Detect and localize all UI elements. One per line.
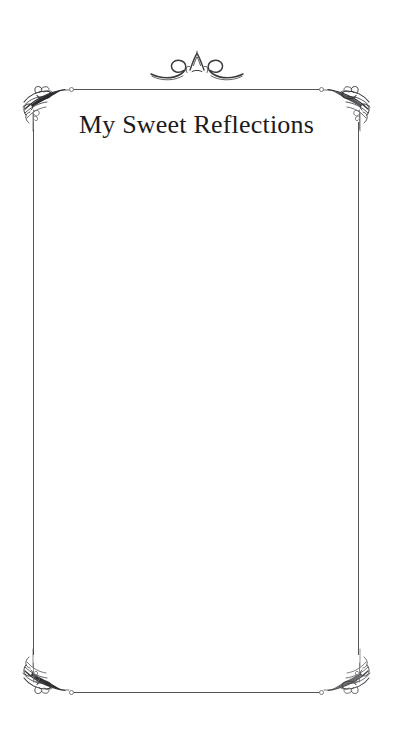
frame-rule-right [358, 122, 359, 655]
corner-ornament-bottom-left [19, 645, 71, 701]
frame-node-bottom-right [319, 690, 324, 695]
frame-rule-top [72, 89, 321, 90]
writing-area[interactable] [40, 150, 353, 645]
frame-node-bottom-left [69, 690, 74, 695]
journal-page: My Sweet Reflections [0, 0, 393, 735]
frame-node-top-right [319, 87, 324, 92]
frame-accent-bottom-left [28, 662, 44, 684]
corner-ornament-bottom-right [322, 645, 374, 701]
frame-rule-bottom [72, 692, 321, 693]
page-title: My Sweet Reflections [0, 110, 393, 140]
frame-accent-bottom-right [349, 662, 365, 684]
reflections-textarea[interactable] [40, 150, 353, 645]
flourish-icon [149, 50, 245, 84]
frame-rule-left [33, 122, 34, 655]
top-center-flourish-container [0, 48, 393, 86]
frame-node-top-left [69, 87, 74, 92]
